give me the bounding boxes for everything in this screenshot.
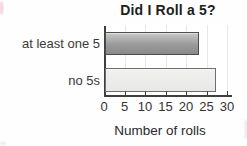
category-label-no-5s: no 5s [0, 73, 100, 88]
x-tick-20 [186, 91, 187, 96]
category-label-at-least-one-5: at least one 5 [0, 36, 100, 51]
bar-chart-figure: Did I Roll a 5? Number of rolls 05101520… [0, 0, 247, 146]
bar-at-least-one-5 [105, 32, 199, 55]
x-tick-label-30: 30 [215, 99, 239, 114]
scan-artifact [245, 120, 247, 138]
x-tick-15 [166, 91, 167, 96]
x-tick-30 [227, 91, 228, 96]
x-tick-10 [145, 91, 146, 96]
x-axis-label: Number of rolls [104, 123, 216, 138]
x-tick-5 [125, 91, 126, 96]
x-tick-25 [207, 91, 208, 96]
scan-artifact [0, 2, 3, 14]
plot-area [104, 24, 232, 97]
x-axis-line [104, 95, 232, 97]
gridline-x-30 [227, 25, 228, 96]
scan-artifact [0, 142, 6, 145]
bar-no-5s [105, 68, 216, 92]
x-tick-0 [104, 91, 105, 96]
chart-title: Did I Roll a 5? [102, 2, 234, 18]
